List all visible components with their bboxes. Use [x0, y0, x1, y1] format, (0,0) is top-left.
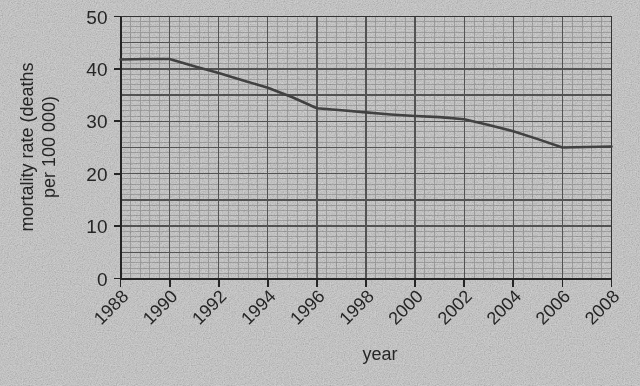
y-axis-ticks: 50403020100: [86, 7, 120, 290]
x-tick-label: 2002: [434, 286, 476, 328]
x-tick-label: 2004: [483, 286, 525, 328]
y-tick-label: 30: [86, 111, 107, 132]
x-tick-label: 1988: [90, 286, 132, 328]
x-tick-label: 1992: [188, 286, 230, 328]
y-tick-label: 20: [86, 164, 107, 185]
x-tick-label: 2008: [581, 286, 623, 328]
y-tick-label: 50: [86, 7, 107, 28]
y-tick-label: 10: [86, 216, 107, 237]
mortality-rate-line-chart: 5040302010019881990199219941996199820002…: [0, 0, 640, 386]
y-axis-title: mortality rate (deathsper 100 000): [17, 62, 59, 231]
x-axis-ticks: 1988199019921994199619982000200220042006…: [90, 279, 623, 329]
x-tick-label: 1994: [237, 286, 279, 328]
x-axis-title: year: [362, 344, 397, 364]
y-tick-label: 40: [86, 59, 107, 80]
x-tick-label: 1998: [335, 286, 377, 328]
chart-figure: 5040302010019881990199219941996199820002…: [0, 0, 640, 386]
y-axis-title-line-1: mortality rate (deaths: [17, 62, 37, 231]
x-tick-label: 1996: [286, 286, 328, 328]
y-axis-title-line-2: per 100 000): [39, 96, 59, 198]
x-tick-label: 1990: [139, 286, 181, 328]
x-tick-label: 2000: [384, 286, 426, 328]
y-tick-label: 0: [97, 269, 108, 290]
x-tick-label: 2006: [532, 286, 574, 328]
